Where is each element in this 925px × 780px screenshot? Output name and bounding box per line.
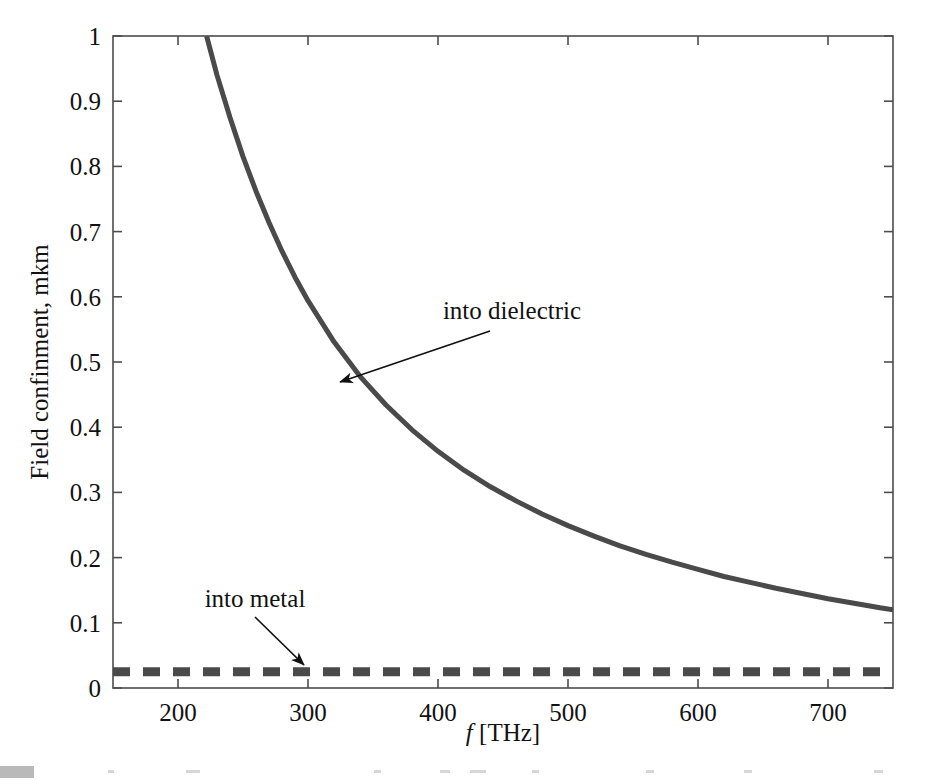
page-bottom-strip (0, 762, 925, 780)
x-tick-label: 700 (809, 699, 847, 726)
figure-container: 200300400500600700 00.10.20.30.40.50.60.… (0, 0, 925, 780)
y-tick-label: 0.9 (70, 88, 101, 115)
annotation-label-into-dielectric: into dielectric (443, 297, 581, 324)
annotation-arrow-into-dielectric (340, 331, 490, 382)
y-axis-tick-labels: 00.10.20.30.40.50.60.70.80.91 (70, 23, 102, 702)
y-tick-label: 0.8 (70, 153, 101, 180)
y-tick-label: 0.1 (70, 610, 101, 637)
caption-fleck (874, 770, 883, 773)
y-tick-label: 0.7 (70, 219, 101, 246)
y-tick-label: 0.4 (70, 414, 102, 441)
y-tick-label: 0 (89, 675, 102, 702)
caption-fleck (532, 770, 539, 773)
x-axis-title: f [THz] (466, 719, 540, 746)
x-tick-label: 500 (549, 699, 587, 726)
caption-fleck (470, 770, 486, 773)
annotation-layer: into dielectricinto metal (205, 297, 581, 665)
caption-fleck (108, 770, 114, 773)
y-tick-label: 0.5 (70, 349, 101, 376)
x-tick-label: 300 (289, 699, 327, 726)
chart-canvas: 200300400500600700 00.10.20.30.40.50.60.… (0, 0, 925, 780)
x-tick-label: 400 (419, 699, 457, 726)
y-tick-label: 0.2 (70, 545, 101, 572)
caption-fleck (744, 770, 752, 773)
x-tick-label: 600 (679, 699, 717, 726)
annotation-arrow-into-metal (255, 617, 304, 665)
x-tick-label: 200 (159, 699, 197, 726)
caption-fleck (186, 770, 200, 773)
y-axis-title: Field confinment, mkm (26, 244, 53, 480)
data-series-layer (113, 36, 893, 672)
caption-fleck (374, 770, 381, 773)
y-tick-label: 0.3 (70, 479, 101, 506)
y-tick-label: 0.6 (70, 284, 101, 311)
annotation-label-into-metal: into metal (205, 585, 306, 612)
caption-fleck (646, 770, 654, 773)
y-tick-label: 1 (89, 23, 102, 50)
caption-marker-block (0, 766, 34, 778)
caption-fleck (440, 770, 450, 773)
